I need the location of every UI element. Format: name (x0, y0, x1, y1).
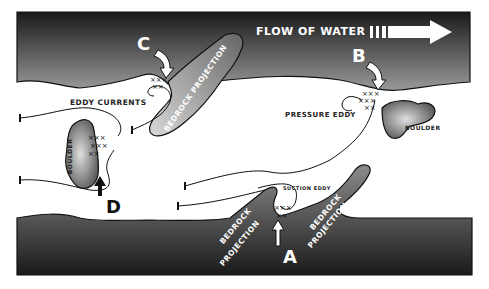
svg-text:×××: ××× (90, 142, 108, 150)
marker-b: B (352, 45, 366, 66)
top-riverbank (17, 12, 470, 90)
suction-eddy-label: SUCTION EDDY (283, 185, 331, 191)
svg-text:××: ×× (88, 150, 100, 158)
marker-c: C (137, 33, 151, 54)
svg-text:××: ×× (364, 104, 376, 112)
diagram-canvas: ××××× ×××××××× ×××××××× ××××× (0, 0, 489, 289)
boulder-right-label: BOULDER (405, 124, 441, 131)
eddy-currents-label: EDDY CURRENTS (70, 98, 147, 107)
flow-of-water-label: FLOW OF WATER (256, 25, 365, 38)
boulder-left-label: BOULDER (66, 139, 73, 175)
svg-text:×××: ××× (274, 204, 292, 212)
boulder-right (382, 101, 435, 139)
river-eddy-diagram: ××××× ×××××××× ×××××××× ××××× FLOW OF WA… (0, 0, 489, 289)
svg-text:×××: ××× (88, 134, 106, 142)
pressure-eddy-label: PRESSURE EDDY (285, 111, 356, 119)
svg-text:××: ×× (276, 212, 288, 220)
marker-a: A (283, 246, 297, 267)
marker-d: D (106, 196, 121, 217)
svg-text:××: ×× (152, 83, 164, 91)
